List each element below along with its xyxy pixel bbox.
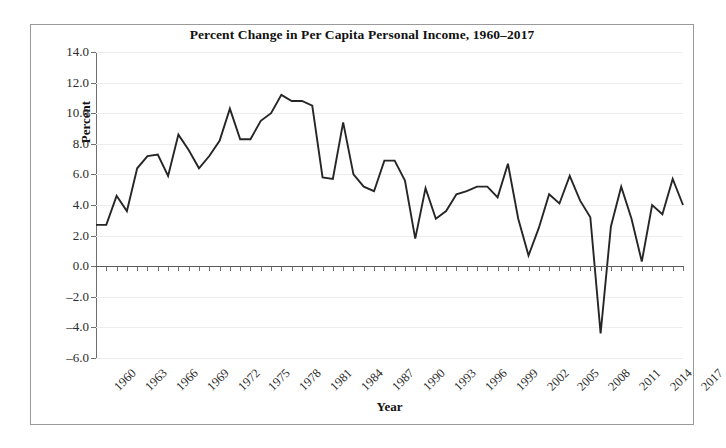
- x-tick-label: 2017: [698, 366, 726, 394]
- plot-area: Percent 14.012.010.08.06.04.02.00.0–2.0–…: [96, 52, 683, 358]
- zero-axis-line: [96, 266, 683, 267]
- chart-title: Percent Change in Per Capita Personal In…: [30, 27, 694, 43]
- y-tick-mark: [91, 358, 96, 359]
- y-tick-label: –4.0: [66, 319, 89, 335]
- x-tick-mark: [683, 266, 684, 271]
- y-tick-label: 2.0: [73, 228, 89, 244]
- y-tick-label: 0.0: [73, 258, 89, 274]
- y-tick-label: 4.0: [73, 197, 89, 213]
- x-axis-title: Year: [96, 399, 683, 415]
- y-tick-label: 8.0: [73, 136, 89, 152]
- y-tick-label: 14.0: [66, 44, 89, 60]
- y-tick-label: 12.0: [66, 75, 89, 91]
- y-tick-label: –2.0: [66, 289, 89, 305]
- y-tick-label: 6.0: [73, 166, 89, 182]
- gridline: [96, 358, 683, 359]
- data-series-line: [96, 52, 683, 358]
- y-tick-label: 10.0: [66, 105, 89, 121]
- y-tick-label: –6.0: [66, 350, 89, 366]
